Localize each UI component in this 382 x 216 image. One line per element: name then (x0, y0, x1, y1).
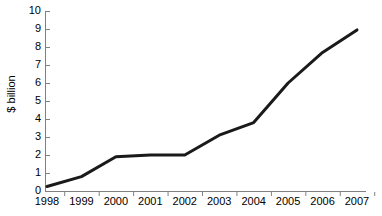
axis-lines (45, 11, 366, 192)
x-axis-ticks (65, 192, 375, 196)
y-axis-ticks (46, 12, 50, 192)
line-chart: $ billion 012345678910 19981999200020012… (0, 0, 382, 216)
plot-area (0, 0, 382, 216)
data-series-line (47, 30, 357, 187)
